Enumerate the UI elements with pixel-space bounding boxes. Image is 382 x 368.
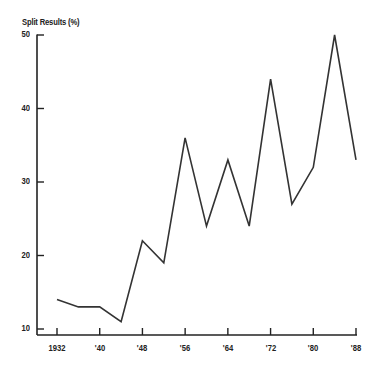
series-line	[57, 35, 356, 322]
line-chart	[0, 0, 382, 368]
y-tick-label: 10	[13, 323, 30, 333]
x-tick-label: '72	[254, 343, 288, 353]
x-tick-label: 1932	[40, 343, 74, 353]
y-tick-label: 20	[13, 250, 30, 260]
x-tick-label: '64	[211, 343, 245, 353]
x-tick-label: '40	[83, 343, 117, 353]
x-tick-label: '80	[296, 343, 330, 353]
x-tick-label: '56	[168, 343, 202, 353]
y-tick-label: 30	[13, 176, 30, 186]
y-tick-label: 40	[13, 103, 30, 113]
x-tick-label: '48	[125, 343, 159, 353]
x-tick-label: '88	[339, 343, 373, 353]
y-tick-label: 50	[13, 29, 30, 39]
